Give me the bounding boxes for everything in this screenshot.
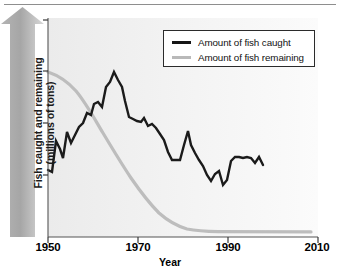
figure-container: Fish caught and remaining (millions of t… [0, 0, 340, 271]
x-tick-label-2010: 2010 [297, 241, 337, 253]
legend-item-fish-remaining: Amount of fish remaining [172, 49, 304, 65]
x-axis-title: Year [0, 256, 340, 268]
legend-swatch-icon-fish-caught [172, 41, 191, 44]
legend-swatch-icon-fish-remaining [172, 56, 191, 59]
x-axis-ticks [48, 237, 318, 243]
legend-label-fish-caught: Amount of fish caught [198, 37, 291, 48]
x-tick-label-1950: 1950 [28, 241, 68, 253]
x-tick-label-1970: 1970 [118, 241, 158, 253]
y-axis-label-line-2: (millions of tons) [45, 57, 57, 188]
legend-item-fish-caught: Amount of fish caught [172, 34, 291, 50]
x-tick-label-1990: 1990 [208, 241, 248, 253]
y-axis-label: Fish caught and remaining (millions of t… [23, 8, 67, 238]
chart-legend: Amount of fish caught Amount of fish rem… [163, 30, 315, 67]
legend-label-fish-remaining: Amount of fish remaining [198, 52, 304, 63]
